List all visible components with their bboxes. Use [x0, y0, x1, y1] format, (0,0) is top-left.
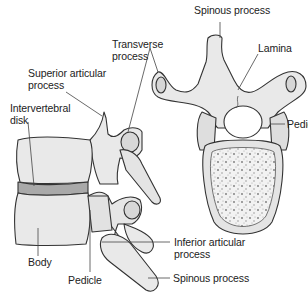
superior-view-vertebra	[152, 35, 306, 234]
label-inferior-articular-process: Inferior articular process	[174, 236, 245, 260]
label-spinous-process-superior: Spinous process	[194, 4, 270, 16]
label-spinous-process-lateral: Spinous process	[173, 272, 249, 284]
label-lamina: Lamina	[258, 42, 292, 54]
label-pedicle-lateral: Pedicle	[68, 274, 102, 286]
label-pedicle-superior: Pedicle	[287, 118, 308, 130]
label-transverse-process: Transverse process	[112, 38, 163, 62]
label-body: Body	[28, 256, 52, 268]
label-intervertebral-disk: Intervertebral disk	[10, 102, 70, 126]
vertebra-diagram: Spinous process Lamina Pedicle Transvers…	[0, 0, 308, 297]
label-superior-articular-process: Superior articular process	[28, 67, 106, 91]
